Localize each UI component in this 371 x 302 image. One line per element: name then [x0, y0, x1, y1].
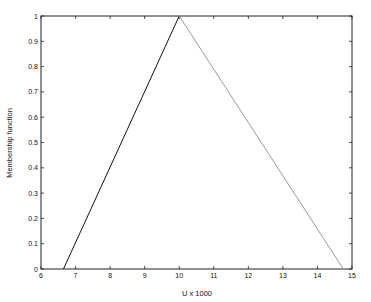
y-tick-label: 0.6: [28, 114, 38, 121]
y-tick-label: 0.5: [28, 139, 38, 146]
y-tick-label: 0.8: [28, 63, 38, 70]
y-tick-label: 0.4: [28, 164, 38, 171]
series-line: [179, 16, 343, 269]
y-tick-label: 0.1: [28, 240, 38, 247]
x-tick-label: 9: [143, 272, 147, 279]
series-line: [63, 16, 179, 269]
plot-border: [41, 16, 352, 269]
y-tick-label: 1: [34, 13, 38, 20]
x-tick-label: 15: [348, 272, 356, 279]
y-tick-label: 0.9: [28, 38, 38, 45]
plot-frame: [41, 16, 352, 269]
y-tick-label: 0: [34, 266, 38, 273]
x-tick-label: 12: [244, 272, 252, 279]
y-tick-label: 0.2: [28, 215, 38, 222]
y-tick-label: 0.3: [28, 190, 38, 197]
y-axis-label: Membership function: [5, 108, 14, 178]
x-tick-label: 14: [314, 272, 322, 279]
x-tick-label: 11: [210, 272, 217, 279]
y-tick-label: 0.7: [28, 88, 38, 95]
data-series: [63, 16, 343, 269]
x-tick-label: 7: [74, 272, 78, 279]
x-tick-label: 6: [39, 272, 43, 279]
x-tick-label: 10: [175, 272, 183, 279]
x-tick-label: 8: [108, 272, 112, 279]
x-axis-label: U x 1000: [182, 289, 212, 298]
membership-function-chart: 678910111213141500.10.20.30.40.50.60.70.…: [0, 0, 371, 302]
x-tick-label: 13: [279, 272, 287, 279]
